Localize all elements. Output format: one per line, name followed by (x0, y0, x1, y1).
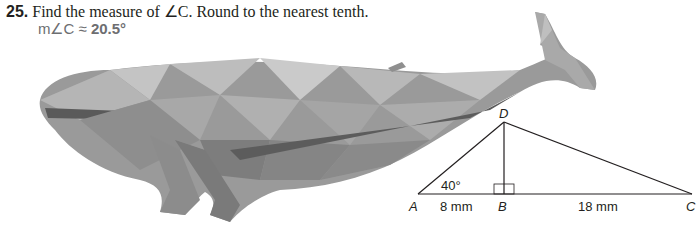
low-poly-whale-icon (40, 12, 597, 222)
vertex-label-c: C (686, 199, 696, 214)
segment-DC (504, 122, 692, 194)
vertex-label-a: A (408, 199, 418, 214)
angle-a-label: 40° (441, 178, 461, 193)
segment-ab-label: 8 mm (440, 199, 473, 214)
vertex-label-b: B (498, 199, 507, 214)
vertex-label-d: D (499, 106, 508, 121)
segment-bc-label: 18 mm (578, 199, 618, 214)
figure: D A B C 40° 8 mm 18 mm (0, 0, 700, 233)
